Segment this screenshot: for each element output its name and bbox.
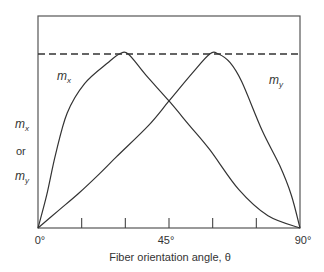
svg-text:my: my <box>15 169 30 185</box>
plot-frame <box>38 16 300 228</box>
x-tick-label-90: 90° <box>295 234 312 246</box>
curve-m-y <box>38 52 300 228</box>
curve-m-x <box>38 52 300 228</box>
x-axis-title: Fiber orientation angle, θ <box>109 251 231 263</box>
x-tick-label-45: 45° <box>158 234 175 246</box>
series-label-m-y: my <box>269 73 284 89</box>
series-label-m-x: mx <box>57 69 72 85</box>
x-tick-label-0: 0° <box>35 234 46 246</box>
svg-text:mx: mx <box>15 117 30 133</box>
chart-figure: mx my mx or my 0° 45° 90° Fiber orientat… <box>0 0 324 272</box>
y-axis-label: mx or my <box>15 117 30 185</box>
x-axis-ticks <box>82 218 257 228</box>
svg-text:or: or <box>16 145 26 157</box>
